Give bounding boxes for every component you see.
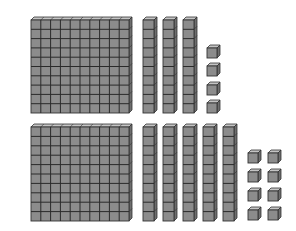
ten-rod (183, 124, 197, 221)
hundred-flat (31, 17, 132, 113)
ten-rod (183, 17, 197, 113)
unit-cube (248, 169, 261, 182)
unit-cube (248, 150, 261, 163)
unit-cube (248, 207, 261, 220)
unit-cube (268, 169, 281, 182)
top-group (31, 17, 220, 113)
ten-rod (143, 17, 157, 113)
unit-cube (248, 188, 261, 201)
unit-cube (268, 188, 281, 201)
unit-cube (207, 63, 220, 76)
ten-rod (203, 124, 217, 221)
ten-rod (163, 17, 177, 113)
unit-cube (207, 100, 220, 113)
unit-cube (268, 207, 281, 220)
ten-rod (223, 124, 237, 221)
unit-cube (268, 150, 281, 163)
ten-rod (143, 124, 157, 221)
unit-cube (207, 45, 220, 58)
blocks-canvas (0, 0, 296, 231)
bottom-group (31, 124, 281, 221)
ten-rod (163, 124, 177, 221)
unit-cube (207, 82, 220, 95)
hundred-flat (31, 124, 132, 221)
